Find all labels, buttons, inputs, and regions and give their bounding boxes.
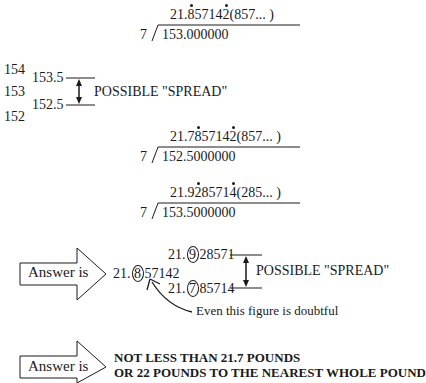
value-rest: 85714 — [200, 281, 235, 296]
answer-label-2: Answer is — [28, 358, 88, 375]
answer-label-1: Answer is — [28, 264, 88, 281]
repeat-digit: 2 — [195, 185, 202, 200]
value-int: 21. — [113, 266, 131, 281]
divisor-2: 7 — [140, 149, 147, 165]
quotient-mid: 5714 — [202, 129, 230, 144]
final-answer-line-2: OR 22 POUNDS TO THE NEAREST WHOLE POUND — [114, 365, 426, 381]
quotient-2: 21.7857142(857... ) — [170, 129, 281, 145]
doubt-note: Even this figure is doubtful — [196, 303, 338, 319]
tick-153: 153 — [4, 84, 25, 100]
dividend-3: 153.5000000 — [162, 205, 236, 221]
repeat-digit: 4 — [230, 185, 237, 200]
tick-152: 152 — [4, 109, 25, 125]
quotient-int: 21.7 — [170, 129, 195, 144]
quotient-tail: (857... ) — [230, 7, 274, 22]
repeat-digit: 2 — [223, 7, 230, 22]
spread-label-2: POSSIBLE "SPREAD" — [256, 263, 389, 279]
quotient-tail: (857... ) — [237, 129, 281, 144]
circled-digit: 8 — [132, 265, 144, 282]
quotient-int: 21. — [170, 7, 188, 22]
tick-154: 154 — [4, 62, 25, 78]
spread-label-1: POSSIBLE "SPREAD" — [94, 84, 227, 100]
arrow-up-icon — [243, 256, 249, 263]
value-rest: 28571 — [200, 247, 235, 262]
arrow-down-icon — [76, 97, 82, 104]
dividend-2: 152.5000000 — [162, 149, 236, 165]
value-int: 21. — [168, 247, 186, 262]
quotient-3: 21.9285714(285... ) — [170, 185, 281, 201]
value-rest: 57142 — [145, 266, 180, 281]
divisor-1: 7 — [140, 27, 147, 43]
arrow-down-icon — [243, 280, 249, 287]
lower-bound: 152.5 — [32, 97, 64, 113]
quotient-1: 21.857142(857... ) — [170, 7, 274, 23]
repeat-digit: 8 — [195, 129, 202, 144]
quotient-int: 21.9 — [170, 185, 195, 200]
upper-bound: 153.5 — [32, 70, 64, 86]
circled-digit: 9 — [187, 246, 199, 263]
value-int: 21. — [168, 281, 186, 296]
upper-value: 21.928571 — [168, 246, 235, 263]
quotient-mid: 5714 — [195, 7, 223, 22]
quotient-mid: 8571 — [202, 185, 230, 200]
arrow-up-icon — [76, 79, 82, 86]
quotient-tail: (285... ) — [237, 185, 281, 200]
circled-digit: 7 — [187, 280, 199, 297]
final-answer-line-1: NOT LESS THAN 21.7 POUNDS — [114, 350, 300, 366]
lower-value: 21.785714 — [168, 280, 235, 297]
repeat-digit: 2 — [230, 129, 237, 144]
repeat-digit: 8 — [188, 7, 195, 22]
divisor-3: 7 — [140, 205, 147, 221]
dividend-1: 153.000000 — [162, 27, 229, 43]
